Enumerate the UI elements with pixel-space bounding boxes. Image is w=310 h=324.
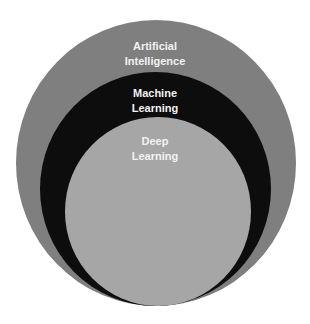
dl-label-line2: Learning: [0, 149, 310, 164]
ai-label: Artificial Intelligence: [0, 39, 310, 69]
ml-label: Machine Learning: [0, 86, 310, 116]
ai-label-line2: Intelligence: [0, 54, 310, 69]
ai-label-line1: Artificial: [0, 39, 310, 54]
ml-label-line1: Machine: [0, 86, 310, 101]
ml-label-line2: Learning: [0, 101, 310, 116]
dl-label-line1: Deep: [0, 134, 310, 149]
dl-label: Deep Learning: [0, 134, 310, 164]
